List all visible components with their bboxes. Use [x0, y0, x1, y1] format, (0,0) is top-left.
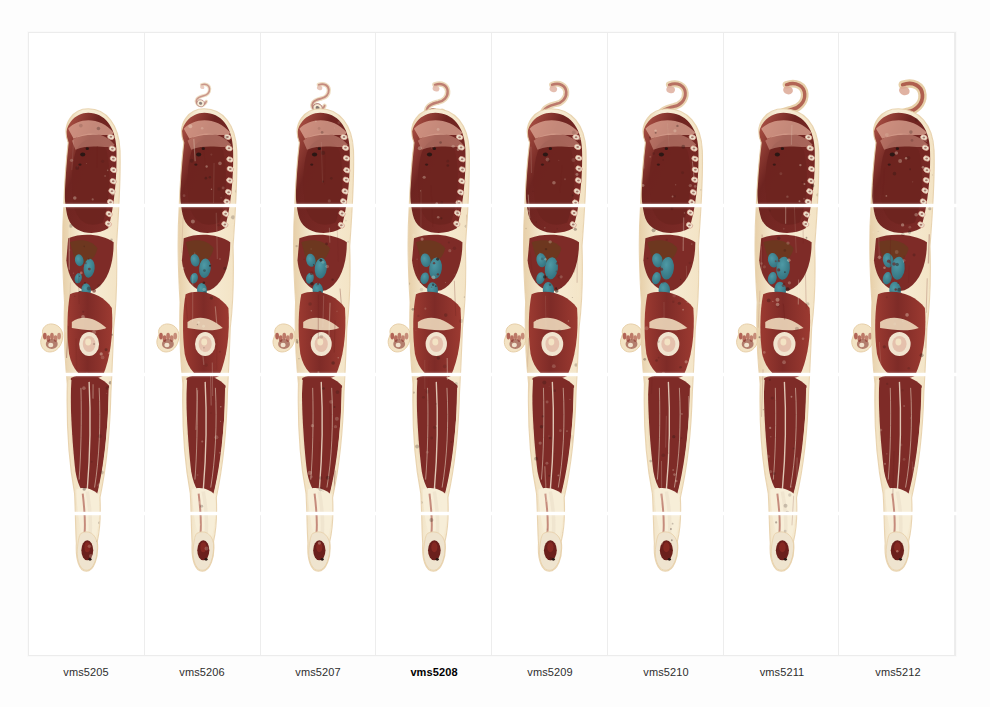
slice-panel-vms5206[interactable]	[145, 33, 261, 655]
slice-panel-vms5205[interactable]	[29, 33, 145, 655]
slice-label-vms5207[interactable]: vms5207	[260, 660, 376, 684]
slice-image-vms5207	[261, 33, 376, 655]
slice-panel-vms5212[interactable]	[839, 33, 955, 655]
slice-panel-vms5211[interactable]	[724, 33, 840, 655]
slice-label-vms5211[interactable]: vms5211	[724, 660, 840, 684]
slice-image-vms5209	[492, 33, 607, 655]
slice-panel-vms5208[interactable]	[376, 33, 492, 655]
slice-label-vms5210[interactable]: vms5210	[608, 660, 724, 684]
slice-strip	[28, 32, 956, 656]
slice-image-vms5210	[608, 33, 723, 655]
slice-label-row: vms5205vms5206vms5207vms5208vms5209vms52…	[28, 660, 956, 684]
slice-label-vms5212[interactable]: vms5212	[840, 660, 956, 684]
slice-image-vms5206	[145, 33, 260, 655]
slice-viewer: vms5205vms5206vms5207vms5208vms5209vms52…	[0, 0, 990, 707]
slice-label-vms5208[interactable]: vms5208	[376, 660, 492, 684]
slice-panel-vms5210[interactable]	[608, 33, 724, 655]
slice-panel-vms5209[interactable]	[492, 33, 608, 655]
slice-image-vms5212	[839, 33, 954, 655]
slice-label-vms5205[interactable]: vms5205	[28, 660, 144, 684]
slice-image-vms5211	[724, 33, 839, 655]
slice-image-vms5208	[376, 33, 491, 655]
slice-label-vms5206[interactable]: vms5206	[144, 660, 260, 684]
slice-label-vms5209[interactable]: vms5209	[492, 660, 608, 684]
slice-image-vms5205	[29, 33, 144, 655]
slice-panel-vms5207[interactable]	[261, 33, 377, 655]
